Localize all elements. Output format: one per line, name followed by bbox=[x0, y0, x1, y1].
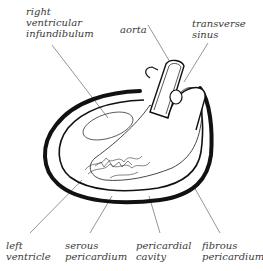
label-transverse-sinus: transverse sinus bbox=[192, 18, 246, 40]
left-ventricle-trabeculae bbox=[85, 156, 150, 178]
label-fibrous-pericardium: fibrous pericardium bbox=[202, 240, 263, 262]
label-serous-pericardium: serous pericardium bbox=[65, 240, 127, 262]
label-left-ventricle: left ventricle bbox=[6, 240, 51, 262]
transverse-sinus-shape bbox=[168, 87, 205, 130]
label-right-ventricular-infundibulum: right ventricular infundibulum bbox=[26, 6, 94, 39]
leader-fibrous-pericardium bbox=[193, 185, 220, 233]
leader-aorta bbox=[148, 25, 170, 62]
label-pericardial-cavity: pericardial cavity bbox=[136, 240, 191, 262]
label-aorta: aorta bbox=[120, 24, 147, 35]
leader-transverse-sinus bbox=[184, 43, 208, 82]
leader-left-ventricle bbox=[30, 180, 82, 233]
heart-pericardium-diagram: right ventricular infundibulum aorta tra… bbox=[0, 0, 263, 271]
heart-illustration bbox=[0, 0, 263, 271]
